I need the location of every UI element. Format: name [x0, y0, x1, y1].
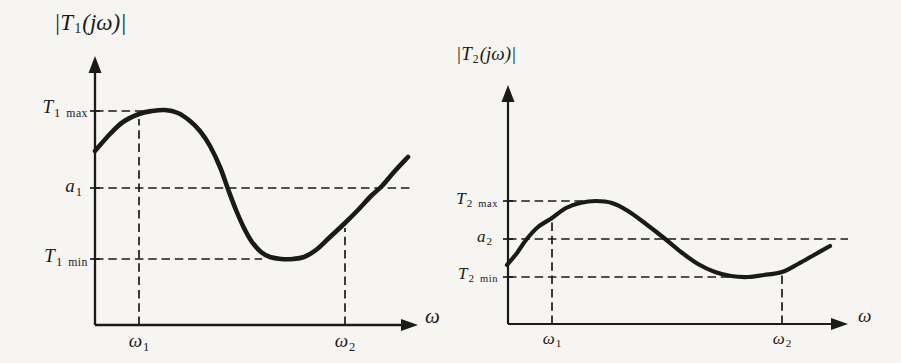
- right-t2min-small: min: [480, 273, 498, 284]
- left-ylabel-t1max: T1max: [18, 97, 88, 116]
- right-title-pre: |T: [456, 43, 472, 64]
- left-t1max-main: T: [42, 96, 53, 117]
- right-title-post: (jω)|: [480, 43, 517, 64]
- right-plot: [502, 85, 849, 330]
- right-ylabel-t2min: T2min: [434, 265, 498, 282]
- right-x-axis-label: ω: [858, 306, 871, 325]
- plot-canvas: [0, 0, 901, 363]
- right-xlabel-omega1: ω1: [537, 330, 567, 347]
- left-a1-subscript: 1: [76, 185, 82, 199]
- right-t2min-main: T: [458, 264, 467, 283]
- right-omega2-main: ω: [773, 329, 785, 348]
- figure-two-magnitude-plots: |T1(jω)| T1max a1 T1min ω1 ω2 ω |T2(jω)|…: [0, 0, 901, 363]
- right-t2max-small: max: [478, 198, 498, 209]
- right-x-axis-arrow-icon: [831, 318, 848, 330]
- right-a2-main: a: [477, 227, 486, 246]
- left-xlabel-omega1: ω1: [123, 331, 155, 350]
- right-omega2-subscript: 2: [786, 337, 792, 349]
- left-y-axis-arrow-icon: [89, 56, 102, 73]
- left-t1min-small: min: [68, 256, 88, 269]
- left-x-axis-label: ω: [425, 306, 440, 327]
- left-omega1-main: ω: [129, 330, 142, 351]
- left-ylabel-t1min: T1min: [18, 246, 88, 265]
- right-ylabel-a2: a2: [466, 228, 498, 245]
- left-title-post: (jω)|: [82, 10, 126, 35]
- right-a2-subscript: 2: [486, 235, 492, 247]
- left-omega1-subscript: 1: [143, 340, 149, 354]
- right-omega1-subscript: 1: [556, 337, 562, 349]
- left-t1max-subscript: 1: [54, 106, 60, 120]
- left-plot: [89, 56, 419, 331]
- left-title-subscript: 1: [74, 20, 81, 36]
- left-t1min-subscript: 1: [56, 255, 62, 269]
- left-t1min-main: T: [44, 245, 55, 266]
- left-x-axis-arrow-icon: [401, 319, 418, 331]
- right-ylabel-t2max: T2max: [434, 190, 498, 207]
- right-t2max-main: T: [456, 189, 465, 208]
- left-magnitude-curve: [95, 110, 408, 259]
- right-t2max-subscript: 2: [467, 197, 473, 209]
- left-ylabel-a1: a1: [54, 176, 88, 195]
- right-omega1-main: ω: [543, 329, 555, 348]
- right-title-subscript: 2: [473, 53, 479, 66]
- left-plot-title: |T1(jω)|: [54, 11, 127, 34]
- right-y-axis-arrow-icon: [502, 85, 515, 102]
- left-omega2-subscript: 2: [349, 340, 355, 354]
- left-a1-main: a: [65, 175, 75, 196]
- right-xlabel-omega2: ω2: [767, 330, 797, 347]
- left-title-pre: |T: [54, 10, 73, 35]
- left-t1max-small: max: [66, 107, 88, 120]
- right-t2min-subscript: 2: [469, 272, 475, 284]
- left-omega2-main: ω: [335, 330, 348, 351]
- left-xlabel-omega2: ω2: [329, 331, 361, 350]
- right-plot-title: |T2(jω)|: [456, 44, 516, 63]
